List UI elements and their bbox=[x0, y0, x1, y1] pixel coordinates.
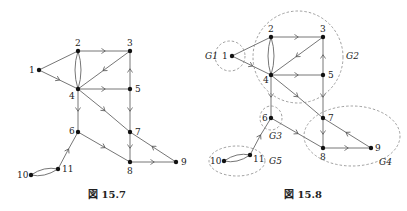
svg-text:7: 7 bbox=[328, 113, 334, 123]
svg-text:8: 8 bbox=[127, 166, 133, 176]
svg-text:4: 4 bbox=[263, 75, 269, 85]
group-g2 bbox=[253, 11, 343, 103]
svg-text:1: 1 bbox=[29, 65, 35, 75]
svg-text:5: 5 bbox=[135, 84, 141, 94]
svg-text:6: 6 bbox=[262, 113, 268, 123]
svg-text:2: 2 bbox=[268, 24, 274, 34]
svg-text:7: 7 bbox=[135, 127, 141, 137]
svg-text:2: 2 bbox=[75, 38, 81, 48]
diagram-canvas: 1 2 3 4 5 6 7 8 9 10 11 bbox=[0, 0, 407, 211]
svg-text:5: 5 bbox=[328, 70, 334, 80]
svg-text:G4: G4 bbox=[379, 157, 392, 167]
svg-text:10: 10 bbox=[17, 170, 29, 180]
svg-text:3: 3 bbox=[127, 38, 133, 48]
svg-text:9: 9 bbox=[375, 143, 381, 153]
svg-text:6: 6 bbox=[69, 126, 75, 136]
svg-text:1: 1 bbox=[222, 51, 228, 61]
figure-15-7 bbox=[29, 49, 178, 177]
svg-text:9: 9 bbox=[181, 157, 187, 167]
svg-text:G5: G5 bbox=[269, 156, 282, 166]
svg-text:G2: G2 bbox=[346, 51, 359, 61]
group-labels: G1 G2 G3 G4 G5 bbox=[205, 51, 392, 167]
svg-text:4: 4 bbox=[69, 91, 75, 101]
svg-text:8: 8 bbox=[320, 152, 326, 162]
caption-15-8: 図 15.8 bbox=[284, 186, 322, 201]
svg-text:11: 11 bbox=[253, 154, 264, 164]
svg-text:G1: G1 bbox=[205, 51, 218, 61]
caption-15-7: 図 15.7 bbox=[88, 186, 126, 201]
svg-text:G3: G3 bbox=[269, 131, 282, 141]
svg-text:10: 10 bbox=[210, 156, 222, 166]
svg-text:3: 3 bbox=[320, 24, 326, 34]
group-circles bbox=[209, 11, 400, 176]
node-labels-15-7: 1 2 3 4 5 6 7 8 9 10 11 bbox=[17, 38, 187, 180]
svg-text:11: 11 bbox=[62, 164, 73, 174]
